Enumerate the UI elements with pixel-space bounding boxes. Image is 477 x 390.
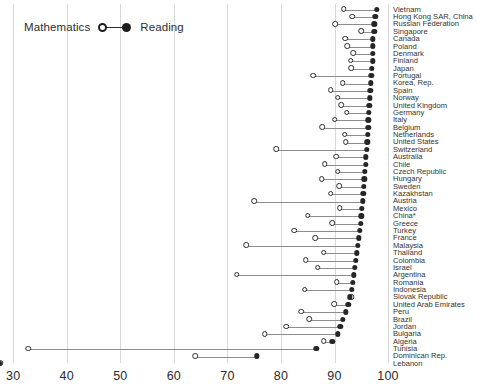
mathematics-point[interactable] bbox=[337, 205, 343, 211]
reading-point[interactable] bbox=[358, 221, 363, 226]
reading-point[interactable] bbox=[367, 95, 372, 100]
mathematics-point[interactable] bbox=[343, 139, 349, 145]
reading-point[interactable] bbox=[365, 132, 370, 137]
mathematics-point[interactable] bbox=[335, 95, 341, 101]
mathematics-point[interactable] bbox=[342, 36, 348, 42]
mathematics-point[interactable] bbox=[273, 146, 279, 152]
mathematics-point[interactable] bbox=[330, 220, 336, 226]
mathematics-point[interactable] bbox=[332, 21, 338, 27]
mathematics-point[interactable] bbox=[331, 301, 337, 307]
mathematics-point[interactable] bbox=[310, 73, 316, 79]
mathematics-point[interactable] bbox=[332, 117, 338, 123]
reading-point[interactable] bbox=[361, 191, 366, 196]
reading-point[interactable] bbox=[362, 169, 367, 174]
reading-point[interactable] bbox=[330, 339, 335, 344]
reading-point[interactable] bbox=[366, 125, 371, 130]
reading-point[interactable] bbox=[343, 309, 348, 314]
mathematics-point[interactable] bbox=[337, 183, 343, 189]
reading-point[interactable] bbox=[340, 317, 345, 322]
reading-point[interactable] bbox=[335, 331, 340, 336]
reading-point[interactable] bbox=[371, 29, 376, 34]
reading-point[interactable] bbox=[353, 258, 358, 263]
connector-line bbox=[331, 91, 371, 92]
reading-point[interactable] bbox=[370, 43, 375, 48]
reading-point[interactable] bbox=[357, 228, 362, 233]
reading-point[interactable] bbox=[369, 73, 374, 78]
mathematics-point[interactable] bbox=[307, 316, 313, 322]
reading-point[interactable] bbox=[351, 272, 356, 277]
reading-point[interactable] bbox=[363, 162, 368, 167]
x-axis-tick-label: 40 bbox=[60, 369, 74, 383]
mathematics-point[interactable] bbox=[334, 279, 340, 285]
reading-point[interactable] bbox=[364, 139, 369, 144]
mathematics-point[interactable] bbox=[348, 65, 354, 71]
mathematics-point[interactable] bbox=[192, 353, 198, 359]
reading-point[interactable] bbox=[360, 198, 365, 203]
mathematics-point[interactable] bbox=[358, 28, 364, 34]
reading-point[interactable] bbox=[362, 176, 367, 181]
mathematics-point[interactable] bbox=[328, 87, 334, 93]
mathematics-point[interactable] bbox=[305, 213, 311, 219]
mathematics-point[interactable] bbox=[350, 50, 356, 56]
mathematics-point[interactable] bbox=[284, 324, 290, 330]
connector-line bbox=[325, 165, 366, 166]
reading-point[interactable] bbox=[367, 103, 372, 108]
reading-point[interactable] bbox=[354, 250, 359, 255]
mathematics-point[interactable] bbox=[333, 154, 339, 160]
mathematics-point[interactable] bbox=[234, 272, 240, 278]
reading-point[interactable] bbox=[368, 88, 373, 93]
reading-point[interactable] bbox=[346, 302, 351, 307]
mathematics-point[interactable] bbox=[302, 287, 308, 293]
reading-point[interactable] bbox=[359, 206, 364, 211]
connector-line bbox=[338, 172, 365, 173]
reading-point[interactable] bbox=[363, 154, 368, 159]
reading-point[interactable] bbox=[349, 287, 354, 292]
mathematics-point[interactable] bbox=[322, 161, 328, 167]
mathematics-point[interactable] bbox=[340, 80, 346, 86]
reading-point[interactable] bbox=[370, 51, 375, 56]
reading-point[interactable] bbox=[314, 346, 319, 351]
mathematics-point[interactable] bbox=[328, 191, 334, 197]
reading-point[interactable] bbox=[364, 147, 369, 152]
mathematics-point[interactable] bbox=[262, 331, 268, 337]
mathematics-point[interactable] bbox=[341, 6, 347, 12]
reading-point[interactable] bbox=[366, 110, 371, 115]
reading-point[interactable] bbox=[370, 58, 375, 63]
mathematics-point[interactable] bbox=[335, 169, 341, 175]
reading-point[interactable] bbox=[359, 213, 364, 218]
reading-point[interactable] bbox=[356, 235, 361, 240]
connector-line bbox=[254, 202, 363, 203]
mathematics-point[interactable] bbox=[319, 176, 325, 182]
mathematics-point[interactable] bbox=[243, 242, 249, 248]
connector-line bbox=[265, 334, 338, 335]
reading-point[interactable] bbox=[370, 36, 375, 41]
reading-point[interactable] bbox=[366, 117, 371, 122]
mathematics-point[interactable] bbox=[312, 235, 318, 241]
mathematics-point[interactable] bbox=[321, 250, 327, 256]
reading-point[interactable] bbox=[338, 324, 343, 329]
reading-point[interactable] bbox=[361, 184, 366, 189]
mathematics-point[interactable] bbox=[321, 338, 327, 344]
reading-point[interactable] bbox=[355, 243, 360, 248]
reading-point[interactable] bbox=[254, 353, 259, 358]
mathematics-point[interactable] bbox=[349, 14, 355, 20]
mathematics-point[interactable] bbox=[25, 346, 31, 352]
mathematics-point[interactable] bbox=[292, 228, 298, 234]
reading-point[interactable] bbox=[352, 265, 357, 270]
reading-point[interactable] bbox=[374, 7, 379, 12]
mathematics-point[interactable] bbox=[319, 124, 325, 130]
mathematics-point[interactable] bbox=[299, 309, 305, 315]
reading-point[interactable] bbox=[369, 66, 374, 71]
mathematics-point[interactable] bbox=[348, 58, 354, 64]
mathematics-point[interactable] bbox=[345, 43, 351, 49]
reading-point[interactable] bbox=[372, 14, 377, 19]
reading-point[interactable] bbox=[350, 280, 355, 285]
mathematics-point[interactable] bbox=[303, 257, 309, 263]
mathematics-point[interactable] bbox=[344, 110, 350, 116]
mathematics-point[interactable] bbox=[315, 265, 321, 271]
reading-point[interactable] bbox=[371, 21, 376, 26]
mathematics-point[interactable] bbox=[342, 132, 348, 138]
mathematics-point[interactable] bbox=[339, 102, 345, 108]
reading-point[interactable] bbox=[368, 80, 373, 85]
mathematics-point[interactable] bbox=[251, 198, 257, 204]
